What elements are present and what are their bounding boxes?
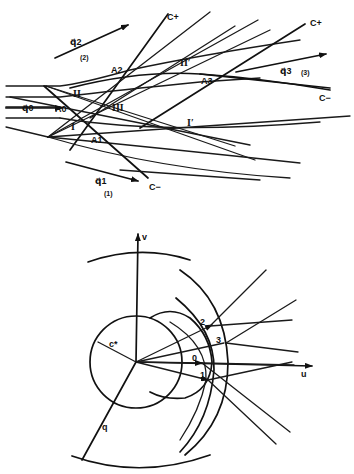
label-region-3: (3) [301, 69, 310, 77]
limit-circle-arc-bottom [72, 455, 210, 468]
label-q0: q⃗0 [22, 103, 33, 113]
label-I: I [71, 121, 75, 132]
arrow-q2 [55, 25, 128, 58]
label-pt3: 3 [216, 335, 221, 345]
hodograph-diagram: v u c* q 2 3 0 1 [72, 232, 312, 468]
label-C-minus-bottom: C− [149, 182, 161, 192]
label-II: II [73, 88, 81, 99]
label-III: III [112, 102, 124, 113]
limit-circle-arc-top [88, 252, 190, 262]
label-region-2: (2) [80, 54, 89, 62]
streamline-2 [6, 78, 260, 97]
label-A0: A0 [55, 104, 67, 114]
q-vector [82, 362, 136, 460]
label-pt0: 0 [192, 353, 197, 363]
line-pt0-down [202, 363, 290, 432]
label-q3: q⃗3 [280, 66, 291, 76]
label-v-axis: v [142, 232, 147, 242]
label-q2: q⃗2 [70, 37, 81, 47]
label-pt1: 1 [200, 370, 205, 380]
label-A2: A2 [111, 65, 123, 75]
line-pt2-right [210, 320, 292, 326]
label-q: q [102, 422, 108, 432]
ray-up-1 [48, 12, 210, 137]
label-C-minus-right: C− [319, 93, 331, 103]
line-pt2-up [210, 270, 266, 326]
label-u-axis: u [301, 369, 307, 379]
reflect-line-3 [10, 97, 250, 145]
label-c-star: c* [109, 339, 118, 349]
label-II-prime: II′ [180, 57, 191, 68]
label-I-prime: I′ [187, 117, 194, 128]
ray-to-pt2 [136, 325, 212, 362]
fan-ray-1 [48, 116, 350, 137]
line-pt3-up [226, 300, 296, 343]
fan-ray-2 [48, 137, 300, 163]
label-C-plus-1: C+ [167, 12, 179, 22]
physical-plane-diagram: q⃗2 (2) C+ C+ A2 II′ A3 q⃗3 (3) C− II q⃗… [6, 12, 350, 198]
streamline-5 [6, 127, 48, 137]
label-pt2: 2 [200, 317, 205, 327]
arc-lower [120, 170, 260, 180]
shock-interaction-figure: q⃗2 (2) C+ C+ A2 II′ A3 q⃗3 (3) C− II q⃗… [0, 0, 354, 474]
label-region-1: (1) [104, 190, 113, 198]
line-pt3-right [226, 343, 298, 352]
ray-to-pt1 [136, 362, 208, 380]
label-q1: q⃗1 [95, 176, 106, 186]
label-A1: A1 [91, 135, 103, 145]
label-A3: A3 [201, 76, 213, 86]
label-C-plus-2: C+ [310, 18, 322, 28]
